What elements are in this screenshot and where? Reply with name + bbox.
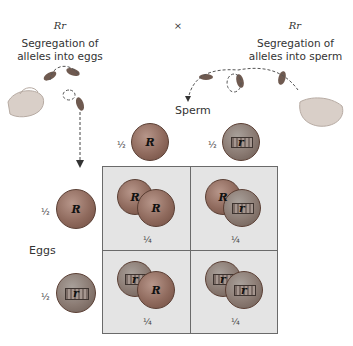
cell-coin: r bbox=[225, 271, 263, 309]
cell-coin: R bbox=[137, 189, 175, 227]
right-hand-icon bbox=[300, 98, 343, 126]
egg-r-probability: ½ bbox=[41, 292, 50, 302]
sperm-R-probability: ½ bbox=[117, 140, 126, 150]
cell-probability: ¼ bbox=[231, 235, 240, 245]
egg-R-coin: R bbox=[56, 189, 96, 229]
egg-R-probability: ½ bbox=[41, 207, 50, 217]
punnett-cell-Rr: R r ¼ bbox=[191, 167, 277, 251]
punnett-cell-rr: r r ¼ bbox=[191, 251, 277, 333]
punnett-square: R R ¼ R r ¼ r R ¼ r r ¼ bbox=[102, 166, 278, 334]
cell-probability: ¼ bbox=[143, 317, 152, 327]
sperm-r-probability: ½ bbox=[208, 140, 217, 150]
sperm-label: Sperm bbox=[175, 104, 211, 117]
punnett-cell-rR: r R ¼ bbox=[103, 251, 191, 333]
cell-probability: ¼ bbox=[231, 317, 240, 327]
female-genotype: Rr bbox=[40, 20, 80, 31]
punnett-cell-RR: R R ¼ bbox=[103, 167, 191, 251]
eggs-label: Eggs bbox=[29, 244, 56, 257]
cell-coin: R bbox=[137, 271, 175, 309]
male-caption-line1: Segregation of bbox=[238, 37, 353, 50]
sperm-R-coin: R bbox=[131, 123, 169, 161]
cell-probability: ¼ bbox=[143, 235, 152, 245]
female-caption-line1: Segregation of bbox=[5, 37, 115, 50]
left-hand-icon bbox=[8, 88, 44, 117]
male-genotype: Rr bbox=[275, 20, 315, 31]
cross-symbol: × bbox=[168, 20, 188, 31]
cell-coin: r bbox=[223, 189, 261, 227]
egg-r-coin: r bbox=[56, 273, 96, 313]
sperm-r-coin: r bbox=[222, 123, 260, 161]
